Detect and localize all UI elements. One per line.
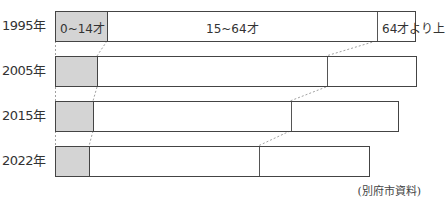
segment-0-14	[56, 102, 94, 131]
segment-65-plus	[260, 147, 369, 176]
segment-15-64	[94, 102, 292, 131]
year-label-1995: 1995年	[2, 18, 52, 34]
bar-2022	[55, 146, 370, 177]
segment-15-64: 15~64才	[108, 12, 378, 41]
segment-15-64	[98, 57, 328, 86]
year-label-2022: 2022年	[2, 153, 52, 169]
segment-65-plus	[292, 102, 398, 131]
year-label-2015: 2015年	[2, 108, 52, 124]
segment-15-64	[90, 147, 260, 176]
segment-0-14	[56, 57, 98, 86]
source-note: (別府市資料)	[357, 182, 421, 198]
bar-2015	[55, 101, 399, 132]
segment-65-plus	[328, 57, 416, 86]
year-label-2005: 2005年	[2, 63, 52, 79]
segment-label-65-plus: 64才より上	[382, 18, 445, 35]
bar-1995: 0~14才 15~64才 64才より上	[55, 11, 416, 42]
segment-label-15-64: 15~64才	[206, 18, 259, 35]
segment-65-plus: 64才より上	[378, 12, 415, 41]
segment-0-14	[56, 147, 90, 176]
bar-2005	[55, 56, 417, 87]
segment-label-0-14: 0~14才	[60, 18, 105, 35]
segment-0-14: 0~14才	[56, 12, 108, 41]
